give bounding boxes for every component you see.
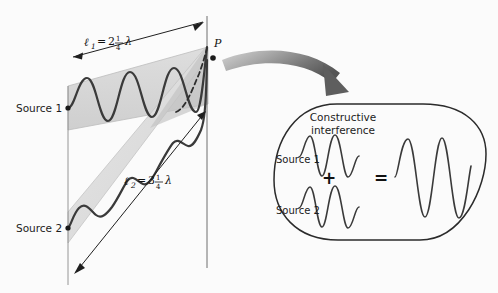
l1-equals: = bbox=[97, 35, 106, 48]
l1-subscript: 1 bbox=[91, 42, 96, 51]
l1-lambda: λ bbox=[124, 35, 132, 48]
l1-numerator: 1 bbox=[116, 35, 120, 43]
l2-subscript: 2 bbox=[130, 181, 136, 190]
panel-title-line1: Constructive bbox=[310, 111, 376, 123]
l2-whole: 3 bbox=[148, 174, 155, 187]
source1-point-marker bbox=[65, 105, 70, 110]
source2-label: Source 2 bbox=[16, 222, 62, 234]
l2-numerator: 1 bbox=[156, 174, 160, 182]
point-p-label: P bbox=[213, 37, 222, 50]
l1-whole: 2 bbox=[108, 35, 115, 48]
point-p-marker bbox=[210, 55, 216, 61]
oval-source2-label: Source 2 bbox=[276, 205, 320, 216]
source2-point-marker bbox=[65, 225, 70, 230]
right-panel: Constructive interference Source 1 + Sou… bbox=[274, 104, 486, 240]
l1-denominator: 4 bbox=[116, 44, 121, 52]
source1-label: Source 1 bbox=[16, 102, 62, 114]
panel-title-line2: interference bbox=[311, 124, 375, 136]
l2-symbol: ℓ bbox=[124, 175, 129, 188]
equals-symbol: = bbox=[374, 168, 388, 188]
l2-lambda: λ bbox=[164, 174, 172, 187]
plus-symbol: + bbox=[322, 168, 336, 188]
l2-denominator: 4 bbox=[156, 183, 161, 191]
l2-equals: = bbox=[137, 174, 146, 187]
oval-source1-label: Source 1 bbox=[276, 154, 320, 165]
interference-figure: ℓ 1 = 2 1 4 λ ℓ 2 = 3 1 4 λ Source 1 Sou… bbox=[0, 0, 498, 293]
l1-symbol: ℓ bbox=[84, 36, 89, 49]
